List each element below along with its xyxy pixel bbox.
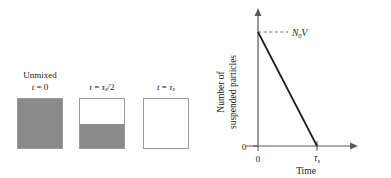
initial-value-annotation: N0V — [291, 28, 309, 39]
beaker-tau-caption-eq: = — [160, 82, 170, 92]
figure-root: Unmixed t = 0 t = τs/2 t = τs — [0, 0, 391, 178]
y-tick-label-zero: 0 — [242, 142, 247, 152]
x-axis — [246, 143, 358, 150]
initial-value-suffix: V — [302, 28, 309, 38]
beaker-t0-caption-value: 0 — [44, 82, 49, 92]
beaker-t0-caption-eq: = — [34, 82, 44, 92]
beaker-tau-caption: t = τs — [140, 82, 192, 93]
beaker-t0-caption: t = 0 — [14, 82, 66, 92]
beaker-tau-caption-sub: s — [172, 85, 175, 92]
beaker-series-panel: Unmixed t = 0 t = τs/2 t = τs — [0, 0, 196, 178]
beaker-half-tau — [79, 98, 125, 149]
beaker-half-tau-caption-eq: = — [92, 82, 102, 92]
x-axis-title: Time — [296, 166, 316, 176]
beaker-half-tau-suspension-fill — [80, 124, 124, 149]
beaker-half-tau-caption: t = τs/2 — [76, 82, 128, 93]
suspended-particles-line — [258, 32, 317, 146]
y-axis-title-line1: Number of — [216, 70, 226, 112]
beaker-t0 — [17, 98, 63, 149]
x-tick-tau-sub: s — [317, 157, 320, 164]
sedimentation-chart-panel: N0V 0 0 τs Time Number of suspended part… — [196, 0, 391, 178]
beaker-half-tau-caption-suffix: /2 — [107, 82, 114, 92]
y-axis-title-line2: suspended particles — [228, 55, 238, 129]
beaker-t0-suspension-fill — [18, 99, 62, 148]
sedimentation-chart: N0V 0 0 τs Time Number of suspended part… — [196, 0, 391, 178]
beaker-tau — [143, 98, 189, 149]
unmixed-label: Unmixed — [14, 70, 66, 80]
x-tick-label-zero: 0 — [256, 154, 261, 164]
y-axis — [255, 8, 262, 146]
x-tick-label-tau: τs — [314, 153, 320, 164]
